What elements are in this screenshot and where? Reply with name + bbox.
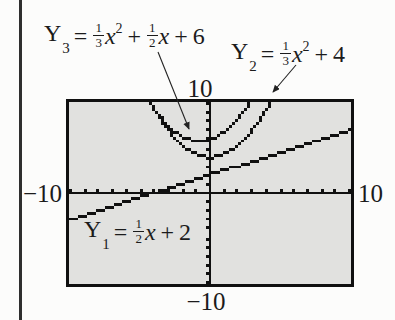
- y3-subscript: 3: [62, 40, 70, 56]
- constant-4: 4: [333, 42, 345, 66]
- page-column-rule: [19, 0, 22, 320]
- variable-x: x: [159, 24, 170, 48]
- function-plot-canvas: [69, 102, 351, 284]
- y2-equation-label: Y2 = 13 x 2 + 4: [231, 39, 345, 68]
- equals-sign: =: [74, 24, 88, 48]
- variable-x: x: [145, 220, 156, 244]
- y1-equation-label: Y1 = 12 x + 2: [84, 217, 191, 246]
- ymin-label: −10: [184, 289, 228, 314]
- equals-sign: =: [114, 220, 128, 244]
- fraction-one-third: 13: [280, 39, 291, 68]
- y2-symbol: Y2: [231, 39, 256, 68]
- variable-x: x: [105, 24, 116, 48]
- y1-subscript: 1: [102, 236, 110, 252]
- constant-6: 6: [193, 24, 205, 48]
- exponent-2: 2: [303, 40, 310, 54]
- ymax-label: 10: [183, 76, 217, 101]
- plus-sign: +: [174, 24, 188, 48]
- constant-2: 2: [179, 220, 191, 244]
- fraction-one-half: 12: [147, 21, 158, 50]
- y1-symbol: Y1: [84, 217, 109, 246]
- textbook-figure: Y3 = 13 x 2 + 12 x + 6 Y2 = 13 x 2 + 4 1…: [0, 0, 395, 320]
- xmax-label: 10: [358, 181, 383, 206]
- variable-x: x: [292, 42, 303, 66]
- plus-sign: +: [315, 42, 329, 66]
- y3-symbol: Y3: [44, 21, 69, 50]
- plus-sign: +: [128, 24, 142, 48]
- y2-subscript: 2: [249, 58, 257, 74]
- xmin-label: −10: [20, 181, 62, 206]
- calculator-screen: [66, 99, 354, 287]
- exponent-2: 2: [116, 22, 123, 36]
- fraction-one-third: 13: [93, 21, 104, 50]
- y3-equation-label: Y3 = 13 x 2 + 12 x + 6: [44, 21, 205, 50]
- plus-sign: +: [161, 220, 175, 244]
- fraction-one-half: 12: [133, 217, 144, 246]
- equals-sign: =: [261, 42, 275, 66]
- y2-arrow: [273, 65, 296, 92]
